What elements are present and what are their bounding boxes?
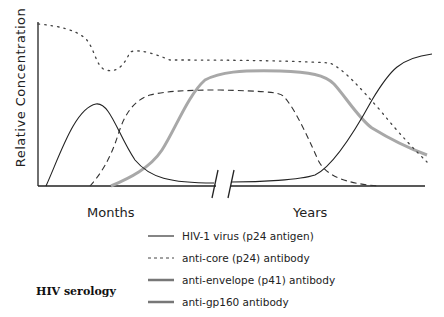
legend-swatch-dotted — [148, 253, 174, 263]
legend: HIV-1 virus (p24 antigen) anti-core (p24… — [148, 225, 335, 313]
x-axis-label-months: Months — [87, 205, 135, 220]
legend-item-anti-envelope: anti-envelope (p41) antibody — [148, 269, 335, 291]
legend-label: HIV-1 virus (p24 antigen) — [182, 230, 314, 242]
axis-break-mark — [228, 170, 234, 198]
legend-item-hiv1-virus: HIV-1 virus (p24 antigen) — [148, 225, 335, 247]
chart-plot — [0, 0, 444, 200]
legend-item-anti-gp160: anti-gp160 antibody — [148, 291, 335, 313]
y-axis-label: Relative Concentration — [13, 8, 28, 168]
series-anti-core — [38, 24, 427, 162]
series-anti-envelope — [90, 90, 380, 186]
legend-item-anti-core: anti-core (p24) antibody — [148, 247, 335, 269]
legend-label: anti-core (p24) antibody — [182, 252, 310, 264]
legend-label: anti-gp160 antibody — [182, 296, 289, 308]
x-axis-label-years: Years — [293, 205, 327, 220]
legend-label: anti-envelope (p41) antibody — [182, 274, 335, 286]
figure-caption: HIV serology — [36, 285, 116, 298]
legend-swatch-thick — [148, 297, 174, 307]
legend-swatch-solid — [148, 231, 174, 241]
axis-break-mark — [212, 170, 218, 198]
legend-swatch-thick — [148, 275, 174, 285]
